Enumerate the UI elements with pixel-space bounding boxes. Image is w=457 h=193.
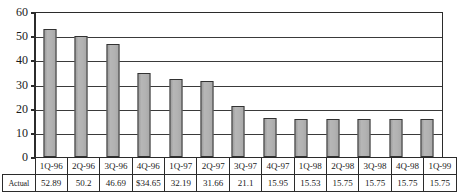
- y-axis-tick-label: 10: [0, 127, 28, 139]
- bar[interactable]: [358, 119, 371, 157]
- y-axis-tick-label: 40: [0, 54, 28, 66]
- table-cell-value: $34.65: [132, 175, 164, 192]
- bar[interactable]: [169, 79, 182, 157]
- bar-slot: [286, 12, 317, 157]
- bar-slot: [349, 12, 380, 157]
- table-row-categories: 1Q-962Q-963Q-964Q-961Q-972Q-973Q-974Q-97…: [3, 158, 457, 175]
- bar[interactable]: [326, 119, 339, 157]
- table-cell-category: 3Q-96: [100, 158, 132, 175]
- bar-slot: [160, 12, 191, 157]
- table-row-header-actual: Actual: [3, 175, 36, 192]
- bar-slot: [254, 12, 285, 157]
- bar[interactable]: [138, 73, 151, 157]
- bar[interactable]: [201, 81, 214, 158]
- table-cell-category: 1Q-98: [294, 158, 326, 175]
- table-cell-category: 2Q-97: [197, 158, 229, 175]
- bar-slot: [380, 12, 411, 157]
- table-cell-category: 4Q-97: [262, 158, 294, 175]
- table-cell-value: 15.53: [294, 175, 326, 192]
- table-cell-value: 15.75: [359, 175, 391, 192]
- table-cell-value: 15.95: [262, 175, 294, 192]
- bar[interactable]: [75, 36, 88, 157]
- table-cell-category: 3Q-97: [229, 158, 261, 175]
- table-cell-value: 50.2: [67, 175, 99, 192]
- y-axis-tick-label: 30: [0, 79, 28, 91]
- data-table: 1Q-962Q-963Q-964Q-961Q-972Q-973Q-974Q-97…: [2, 157, 457, 192]
- table-cell-category: 3Q-98: [359, 158, 391, 175]
- table-row-actual: Actual 52.8950.246.69$34.6532.1931.6621.…: [3, 175, 457, 192]
- bar[interactable]: [43, 29, 56, 157]
- table-cell-value: 46.69: [100, 175, 132, 192]
- bar[interactable]: [421, 119, 434, 157]
- bar[interactable]: [232, 106, 245, 157]
- table-cell-value: 15.75: [424, 175, 456, 192]
- y-axis-tick-label: 20: [0, 103, 28, 115]
- table-cell-category: 2Q-96: [67, 158, 99, 175]
- table-cell-value: 15.75: [391, 175, 423, 192]
- table-cell-value: 21.1: [229, 175, 261, 192]
- bar-slot: [34, 12, 65, 157]
- bar[interactable]: [389, 119, 402, 157]
- y-axis-tick-label: 50: [0, 30, 28, 42]
- bar-slot: [97, 12, 128, 157]
- chart-title-clipped: [42, 0, 252, 2]
- bar-slot: [412, 12, 443, 157]
- table-cell-value: 52.89: [35, 175, 67, 192]
- y-axis-tick-label: 60: [0, 6, 28, 18]
- bar-slot: [65, 12, 96, 157]
- bar-slot: [191, 12, 222, 157]
- table-cell-category: 4Q-96: [132, 158, 164, 175]
- bar-slot: [128, 12, 159, 157]
- bar[interactable]: [106, 44, 119, 157]
- table-cell-category: 1Q-97: [165, 158, 197, 175]
- bars-layer: [34, 12, 443, 157]
- table-cell-value: 15.75: [327, 175, 359, 192]
- bar[interactable]: [295, 119, 308, 157]
- table-cell-category: 1Q-96: [35, 158, 67, 175]
- table-cell-value: 31.66: [197, 175, 229, 192]
- bar[interactable]: [263, 118, 276, 157]
- table-cell-value: 32.19: [165, 175, 197, 192]
- bar-slot: [223, 12, 254, 157]
- table-cell-category: 4Q-98: [391, 158, 423, 175]
- bar-slot: [317, 12, 348, 157]
- table-cell-category: 2Q-98: [327, 158, 359, 175]
- table-cell-category: 1Q-99: [424, 158, 456, 175]
- table-corner-cell: [3, 158, 36, 175]
